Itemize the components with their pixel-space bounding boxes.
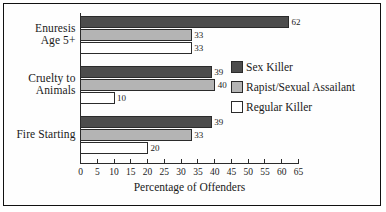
category-label-1: Cruelty to Animals	[0, 72, 76, 97]
bar-2-1[interactable]	[80, 129, 192, 141]
legend-swatch-0	[231, 61, 243, 73]
legend-item-2[interactable]: Regular Killer	[231, 100, 381, 115]
x-tick-35	[197, 159, 198, 163]
bar-value-2-1: 33	[194, 131, 203, 140]
legend-swatch-1	[231, 81, 243, 93]
x-tick-5	[97, 159, 98, 163]
bar-value-1-2: 10	[117, 94, 126, 103]
bar-0-2[interactable]	[80, 42, 192, 54]
x-tick-60	[281, 159, 282, 163]
x-tick-0	[80, 159, 81, 163]
legend-label-0: Sex Killer	[246, 60, 293, 74]
x-tick-label-65: 65	[287, 167, 311, 177]
category-label-2: Fire Starting	[0, 128, 76, 141]
x-tick-15	[130, 159, 131, 163]
x-tick-20	[147, 159, 148, 163]
bar-value-2-0: 39	[214, 118, 223, 127]
legend-label-1: Rapist/Sexual Assailant	[246, 80, 355, 94]
legend-label-2: Regular Killer	[246, 100, 312, 114]
bar-1-0[interactable]	[80, 66, 212, 78]
bar-1-2[interactable]	[80, 92, 115, 104]
bar-chart: Enuresis Age 5+623333Cruelty to Animals3…	[0, 0, 386, 212]
x-tick-55	[264, 159, 265, 163]
bar-value-2-2: 20	[151, 144, 160, 153]
bar-value-1-0: 39	[214, 68, 223, 77]
x-tick-50	[248, 159, 249, 163]
bar-0-1[interactable]	[80, 29, 192, 41]
x-tick-10	[114, 159, 115, 163]
bar-value-0-1: 33	[194, 31, 203, 40]
x-tick-45	[231, 159, 232, 163]
x-axis-line	[80, 163, 299, 164]
bar-2-0[interactable]	[80, 116, 212, 128]
bar-0-0[interactable]	[80, 16, 289, 28]
x-tick-25	[164, 159, 165, 163]
bar-value-0-2: 33	[194, 44, 203, 53]
category-label-0: Enuresis Age 5+	[0, 22, 76, 47]
x-axis-title: Percentage of Offenders	[61, 181, 319, 193]
bar-value-0-0: 62	[291, 18, 300, 27]
bar-1-1[interactable]	[80, 79, 215, 91]
legend-swatch-2	[231, 101, 243, 113]
bar-value-1-1: 40	[218, 81, 227, 90]
bar-2-2[interactable]	[80, 142, 148, 154]
x-tick-40	[214, 159, 215, 163]
x-tick-65	[298, 159, 299, 163]
legend-item-0[interactable]: Sex Killer	[231, 60, 381, 75]
x-tick-30	[181, 159, 182, 163]
legend-item-1[interactable]: Rapist/Sexual Assailant	[231, 80, 381, 95]
